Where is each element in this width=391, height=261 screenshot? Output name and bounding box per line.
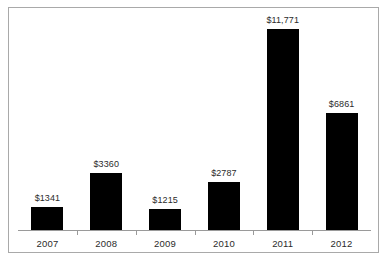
bar-group: $11,771 [267, 0, 299, 230]
bar-value-label: $1215 [152, 195, 178, 206]
x-axis-tick [253, 231, 254, 235]
bar-group: $1341 [31, 0, 63, 230]
x-axis-category-label: 2012 [312, 238, 371, 250]
x-axis-tick [312, 231, 313, 235]
plot-area [18, 12, 372, 230]
x-axis-tick [195, 231, 196, 235]
bar-group: $6861 [326, 0, 358, 230]
x-axis-tick [136, 231, 137, 235]
bar-value-label: $6861 [329, 99, 355, 110]
bar [326, 113, 358, 230]
bar-group: $2787 [208, 0, 240, 230]
bar [90, 173, 122, 230]
bar-chart-figure: $1341$3360$1215$2787$11,771$6861 2007200… [0, 0, 391, 261]
x-axis-tick [77, 231, 78, 235]
bar-value-label: $3360 [93, 159, 119, 170]
bar-group: $3360 [90, 0, 122, 230]
x-axis-category-label: 2008 [77, 238, 136, 250]
x-axis-category-label: 2007 [18, 238, 77, 250]
x-axis-category-label: 2010 [195, 238, 254, 250]
bar [31, 207, 63, 230]
bar [267, 29, 299, 230]
bar-value-label: $11,771 [266, 15, 299, 26]
bar [208, 182, 240, 230]
x-axis-category-label: 2009 [136, 238, 195, 250]
bar [149, 209, 181, 230]
x-axis-category-label: 2011 [253, 238, 312, 250]
bar-group: $1215 [149, 0, 181, 230]
bar-value-label: $1341 [35, 193, 61, 204]
bar-value-label: $2787 [211, 168, 237, 179]
